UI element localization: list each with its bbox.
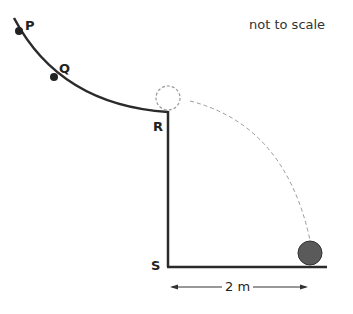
- arrowhead-left: [170, 285, 178, 290]
- not-to-scale-note: not to scale: [249, 17, 325, 32]
- curved-track: [14, 18, 168, 112]
- label-s: S: [151, 258, 160, 273]
- ball-landing: [298, 241, 322, 265]
- label-p: P: [25, 18, 35, 33]
- arrowhead-right: [300, 285, 308, 290]
- label-r: R: [153, 119, 163, 134]
- distance-label: 2 m: [222, 279, 253, 294]
- label-q: Q: [59, 61, 70, 76]
- point-p-marker: [15, 27, 23, 35]
- diagram-canvas: [0, 0, 353, 314]
- point-q-marker: [50, 73, 58, 81]
- trajectory-path: [190, 101, 310, 240]
- ball-start-position: [156, 86, 180, 110]
